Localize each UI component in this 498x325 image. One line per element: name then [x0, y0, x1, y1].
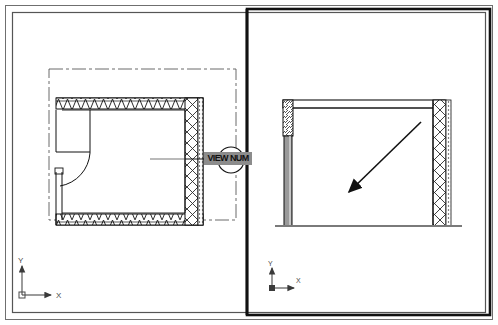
right-wall-dot-seam — [198, 98, 203, 225]
bottom-wall-truss — [56, 214, 203, 225]
door-swing-arc — [60, 153, 90, 186]
plan-ucs-x-label: X — [56, 291, 62, 300]
right-column-dot-seam — [446, 100, 451, 226]
right-wall-lattice — [185, 98, 198, 225]
plan-ucs-y-label: Y — [18, 256, 24, 265]
elevation-ucs-icon: Y X — [268, 260, 301, 291]
left-column-solid — [284, 136, 292, 226]
elevation-view-viewport[interactable] — [247, 9, 490, 315]
centerline-boundary — [49, 69, 236, 220]
elevation-content-group: Y X — [268, 100, 462, 291]
leader-arrow[interactable] — [349, 122, 421, 192]
elevation-ucs-x-label: X — [296, 277, 301, 284]
elevation-ucs-y-label: Y — [268, 260, 273, 267]
plan-view-viewport[interactable]: Y X — [18, 69, 236, 300]
door-jamb-upper — [56, 110, 90, 152]
plan-room-inner-outline — [62, 110, 185, 213]
top-wall-truss — [56, 98, 203, 109]
right-column-lattice — [433, 100, 446, 226]
plan-wall-outer-outline — [56, 98, 203, 225]
view-number-callout-label[interactable]: VIEW NUM — [204, 152, 252, 165]
top-beam — [283, 100, 445, 108]
cad-drawing-canvas: Y X — [0, 0, 498, 325]
left-column-diagonal-hatch — [283, 100, 293, 136]
plan-ucs-icon: Y X — [18, 256, 62, 300]
